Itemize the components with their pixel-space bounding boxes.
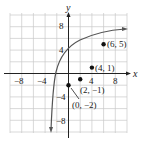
x-tick-neg4: −4 bbox=[37, 76, 47, 86]
x-tick-8: 8 bbox=[113, 76, 118, 86]
x-axis-label: x bbox=[132, 68, 138, 79]
point-label-4-1: (4, 1) bbox=[95, 63, 115, 73]
y-tick-neg8: −8 bbox=[56, 116, 66, 126]
point-label-0-neg2: (0, −2) bbox=[72, 100, 97, 110]
y-tick-4: 4 bbox=[59, 45, 64, 55]
y-tick-neg4: −4 bbox=[56, 92, 66, 102]
chart: x y −8 −4 4 8 8 4 −4 −8 (6, 5) (4, 1) (2… bbox=[0, 0, 142, 143]
point-label-2-neg1: (2, −1) bbox=[80, 85, 105, 95]
leader-line bbox=[71, 88, 79, 99]
y-tick-8: 8 bbox=[59, 21, 64, 31]
x-tick-neg8: −8 bbox=[14, 76, 24, 86]
point-label-6-5: (6, 5) bbox=[107, 39, 127, 49]
y-axis-label: y bbox=[65, 2, 71, 13]
